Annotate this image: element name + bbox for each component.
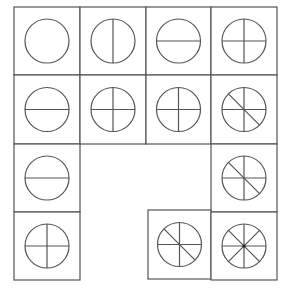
- grid-cell: [14, 212, 80, 280]
- grid-cell: [80, 75, 146, 144]
- center-dot: [242, 244, 245, 247]
- grid-cell: [211, 75, 277, 144]
- grid-cell: [146, 75, 211, 144]
- grid-cell: [80, 7, 146, 75]
- grid-cell: [14, 7, 80, 75]
- grid-cell: [211, 144, 277, 212]
- cell-border: [14, 7, 80, 75]
- grid-cell: [146, 7, 211, 75]
- grid-cell: [148, 210, 211, 279]
- grid-cell: [211, 212, 277, 280]
- grid-cell: [211, 7, 277, 75]
- grid-cell: [14, 75, 80, 144]
- circle-pattern-grid: [0, 0, 295, 294]
- grid-cell: [14, 144, 80, 212]
